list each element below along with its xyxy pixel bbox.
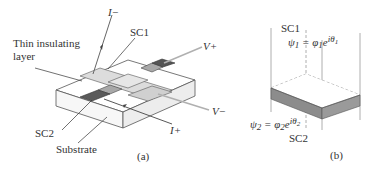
label-i-minus: I− (107, 6, 119, 18)
lead-insulating-pointer (35, 68, 82, 81)
label-sc2: SC2 (35, 127, 54, 139)
arrow-i-minus (100, 44, 103, 50)
label-i-plus: I+ (169, 124, 181, 136)
lead-v-plus (164, 47, 202, 63)
schematic-panel-b: SC1 ψ1 = φ1eiθ1 ψ2 = φ2eiθ2 SC2 (b) (250, 22, 360, 162)
josephson-junction-diagram: I− SC1 Thin insulating layer V+ V− I+ SC… (0, 0, 376, 170)
label-b-sc1: SC1 (281, 22, 300, 34)
caption-a: (a) (137, 150, 150, 163)
label-substrate: Substrate (56, 143, 97, 155)
label-v-plus: V+ (203, 40, 217, 52)
caption-b: (b) (330, 149, 343, 162)
label-v-minus: V− (212, 105, 226, 117)
label-insulating-2: layer (13, 50, 35, 62)
label-b-sc2: SC2 (289, 132, 308, 144)
label-sc1: SC1 (130, 26, 149, 38)
psi1-expression: ψ1 = φ1eiθ1 (288, 34, 338, 50)
label-insulating-1: Thin insulating (13, 37, 80, 49)
psi2-expression: ψ2 = φ2eiθ2 (250, 116, 301, 132)
lead-substrate-pointer (78, 117, 107, 143)
device-panel-a: I− SC1 Thin insulating layer V+ V− I+ SC… (13, 6, 226, 163)
